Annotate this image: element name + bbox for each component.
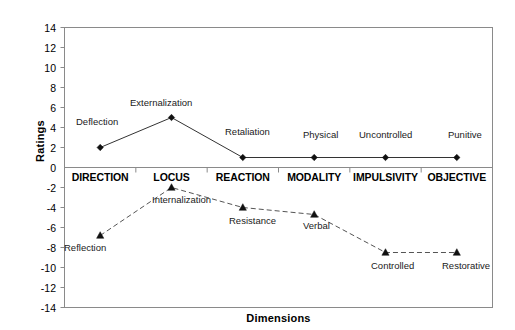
point-label: Internalization: [152, 195, 211, 205]
point-label: Uncontrolled: [359, 130, 412, 140]
data-point-marker: [311, 154, 317, 160]
data-point-marker: [311, 211, 318, 218]
data-point-marker: [97, 144, 103, 150]
point-label: Punitive: [448, 130, 482, 140]
x-category-label: MODALITY: [279, 171, 350, 185]
data-point-marker: [454, 154, 460, 160]
chart-figure: Ratings 14121086420-2-4-6-8-10-12-14 DIR…: [0, 0, 515, 330]
point-label: Controlled: [371, 261, 414, 271]
point-label: Deflection: [76, 117, 118, 127]
point-label: Retaliation: [225, 127, 270, 137]
x-axis-title: Dimensions: [64, 312, 493, 324]
x-category-label: REACTION: [207, 171, 278, 185]
point-label: Resistance: [229, 216, 276, 226]
x-category-label: LOCUS: [136, 171, 207, 185]
point-label: Restorative: [442, 261, 490, 271]
point-label: Physical: [303, 130, 338, 140]
point-label: Externalization: [130, 98, 192, 108]
y-axis-ticks: [61, 28, 65, 308]
data-point-marker: [97, 232, 104, 239]
data-point-marker: [240, 154, 246, 160]
x-category-label: IMPULSIVITY: [350, 171, 421, 185]
data-point-marker: [239, 204, 246, 211]
point-label: Verbal: [303, 221, 330, 231]
plot-canvas: [0, 0, 515, 330]
data-point-marker: [382, 154, 388, 160]
data-point-marker: [453, 249, 460, 256]
point-label: Reflection: [64, 243, 106, 253]
data-point-marker: [168, 114, 174, 120]
x-category-label: OBJECTIVE: [421, 171, 492, 185]
x-category-label: DIRECTION: [65, 171, 136, 185]
